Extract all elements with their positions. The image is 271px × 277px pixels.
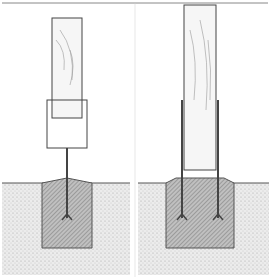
concrete-footing [166,178,234,248]
right-panel [138,5,269,275]
wood-post [52,18,82,118]
post-anchor-illustration [0,0,271,277]
left-panel [2,18,130,275]
wood-post [184,5,216,170]
